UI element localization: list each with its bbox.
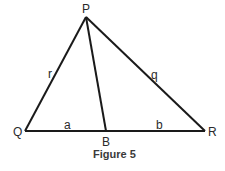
- figure-canvas: P Q R B r q a b Figure 5: [0, 0, 225, 171]
- vertex-label-p: P: [82, 2, 90, 16]
- figure-caption: Figure 5: [93, 148, 136, 160]
- side-label-a: a: [64, 118, 71, 132]
- side-label-r: r: [48, 67, 52, 81]
- vertex-label-q: Q: [13, 125, 22, 139]
- side-label-q: q: [151, 68, 158, 82]
- vertex-label-r: R: [208, 125, 217, 139]
- vertex-label-b: B: [102, 135, 110, 149]
- side-pq: [25, 17, 86, 131]
- side-label-b: b: [156, 118, 163, 132]
- triangle-diagram: P Q R B r q a b Figure 5: [0, 0, 225, 171]
